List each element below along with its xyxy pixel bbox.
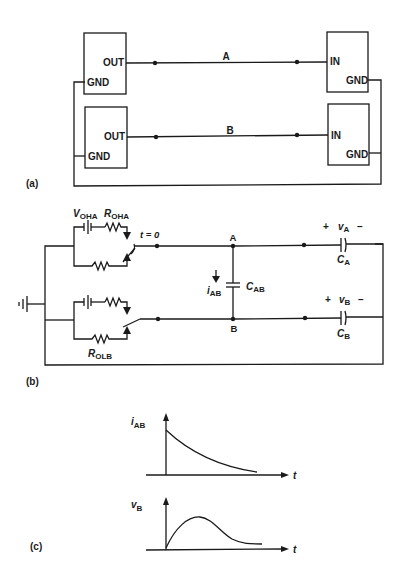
graph-v-b-curve	[166, 517, 262, 548]
driver-b-gnd-label: GND	[88, 151, 110, 162]
resistor-r-oha	[105, 223, 127, 232]
figure-canvas: OUT GND OUT GND IN GND IN GND A B (a)	[0, 0, 403, 572]
v-a-minus: –	[357, 221, 363, 232]
driver-a-upper-branch	[74, 227, 82, 246]
v-b-minus: –	[358, 294, 364, 305]
panel-c: iAB t vB t (c)	[30, 413, 297, 555]
line-a-node-left	[155, 244, 159, 248]
driver-a-out-label: OUT	[103, 57, 124, 68]
panel-a: OUT GND OUT GND IN GND IN GND A B (a)	[26, 32, 381, 189]
arrow-down-icon	[212, 276, 220, 283]
panel-a-label: (a)	[26, 178, 38, 189]
switch-b-contact-upper-arrow-icon	[123, 307, 131, 315]
v-oha-label: VOHA	[73, 208, 98, 221]
switch-a-actuator	[131, 244, 135, 254]
line-b-node-left	[154, 135, 158, 139]
r-oha-label: ROHA	[104, 208, 129, 221]
node-a-label: A	[230, 232, 237, 243]
v-b-plus: +	[325, 294, 331, 305]
panel-b: t = 0 VOHA ROHA ROLB A B CAB	[19, 208, 383, 387]
v-a-plus: +	[323, 221, 329, 232]
resistor-r-olb	[74, 320, 127, 343]
i-ab-label: iAB	[207, 285, 222, 298]
graph-i-ab-curve	[166, 430, 257, 472]
receiver-b-in-label: IN	[331, 130, 341, 141]
graph-v-b-xlabel: t	[293, 544, 297, 555]
battery-icon	[82, 220, 105, 234]
arrow-right-icon	[281, 546, 289, 552]
battery-icon	[82, 295, 105, 309]
arrow-right-icon	[281, 472, 289, 478]
line-b-label: B	[226, 125, 233, 136]
c-b-label: CB	[337, 328, 350, 341]
driver-b-upper-branch	[74, 302, 82, 320]
receiver-a-in-label: IN	[330, 56, 340, 67]
driver-b-upper-resistor	[105, 298, 127, 307]
c-a-label: CA	[337, 254, 350, 267]
switch-contact-upper-arrow-icon	[123, 232, 131, 240]
line-b-node-left	[156, 317, 160, 321]
driver-b-out-label: OUT	[104, 131, 125, 142]
node-b-label: B	[231, 323, 238, 334]
ground-icon	[19, 296, 45, 312]
arrow-up-icon	[163, 497, 169, 505]
graph-i-ab-ylabel: iAB	[131, 416, 146, 430]
line-a-node-right	[295, 60, 299, 64]
line-a-node-right	[302, 243, 306, 247]
graph-i-ab: iAB t	[131, 413, 297, 481]
driver-a-gnd-label: GND	[87, 77, 109, 88]
driver-a-lower-branch-resistor	[74, 246, 127, 270]
c-a-plate-right	[345, 238, 346, 252]
line-b-right-wire	[233, 318, 341, 319]
line-b-node-right	[303, 316, 307, 320]
c-b-plate-right	[345, 311, 346, 325]
panel-c-label: (c)	[30, 541, 42, 552]
line-b-node-right	[295, 133, 299, 137]
receiver-b-gnd-label: GND	[346, 149, 368, 160]
r-olb-label: ROLB	[88, 348, 112, 361]
switch-b-blade	[123, 319, 140, 327]
switch-b-contact-lower-arrow-icon	[123, 326, 131, 334]
panel-b-label: (b)	[26, 376, 39, 387]
v-a-label: vA	[338, 221, 350, 234]
receiver-a-gnd-label: GND	[346, 75, 368, 86]
graph-v-b: vB t	[131, 497, 297, 555]
switch-time-label: t = 0	[140, 229, 160, 240]
c-ab-label: CAB	[246, 281, 265, 294]
v-b-label: vB	[339, 294, 351, 307]
arrow-up-icon	[163, 413, 169, 421]
line-a-node-left	[153, 61, 157, 65]
line-a-label: A	[222, 51, 229, 62]
graph-v-b-ylabel: vB	[131, 499, 143, 513]
graph-i-ab-xlabel: t	[293, 470, 297, 481]
line-a-right-wire	[233, 245, 341, 246]
